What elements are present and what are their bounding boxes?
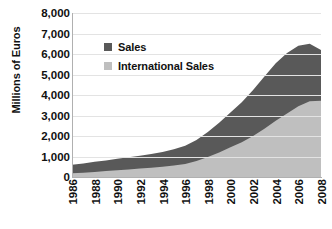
- y-tick-label: 0: [18, 171, 70, 183]
- y-tick-label: 1,000: [18, 151, 70, 163]
- x-tick-label: 2008: [315, 179, 329, 225]
- x-tick-label: 1988: [89, 179, 103, 225]
- legend-swatch-international-sales: [104, 62, 112, 70]
- gridline: [72, 116, 321, 117]
- y-axis-line: [72, 13, 73, 177]
- y-tick-label: 8,000: [18, 7, 70, 19]
- gridline: [72, 136, 321, 137]
- x-tick-label: 1994: [157, 179, 171, 225]
- legend-label: International Sales: [118, 60, 214, 72]
- x-tick-label: 1992: [134, 179, 148, 225]
- legend-item: International Sales: [104, 56, 214, 75]
- legend-label: Sales: [118, 41, 146, 53]
- x-tick-label: 1996: [179, 179, 193, 225]
- gridline: [72, 13, 321, 14]
- y-tick-label: 2,000: [18, 130, 70, 142]
- legend-item: Sales: [104, 37, 214, 56]
- y-tick-label: 6,000: [18, 48, 70, 60]
- y-tick-label: 5,000: [18, 69, 70, 81]
- x-tick-label: 2000: [224, 179, 238, 225]
- gridline: [72, 75, 321, 76]
- x-axis-tick-labels: 1986198819901992199419961998200020022004…: [72, 179, 321, 229]
- x-tick-label: 2004: [270, 179, 284, 225]
- gridline: [72, 157, 321, 158]
- x-tick-label: 1986: [66, 179, 80, 225]
- y-tick-label: 4,000: [18, 89, 70, 101]
- y-tick-label: 3,000: [18, 110, 70, 122]
- x-tick-label: 1998: [202, 179, 216, 225]
- y-tick-label: 7,000: [18, 28, 70, 40]
- y-axis-tick-labels: 8,0007,0006,0005,0004,0003,0002,0001,000…: [18, 0, 70, 181]
- x-axis-line: [72, 177, 322, 178]
- legend-swatch-sales: [104, 43, 112, 51]
- area-chart: Millions of Euros 8,0007,0006,0005,0004,…: [0, 0, 332, 229]
- x-tick-label: 2006: [292, 179, 306, 225]
- x-tick-label: 1990: [111, 179, 125, 225]
- gridline: [72, 34, 321, 35]
- x-tick-label: 2002: [247, 179, 261, 225]
- chart-legend: SalesInternational Sales: [104, 37, 214, 75]
- gridline: [72, 95, 321, 96]
